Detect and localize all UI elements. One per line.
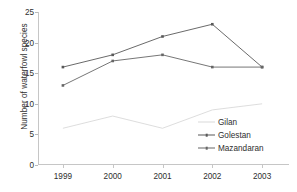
legend-label: Gilan bbox=[218, 118, 237, 127]
series-golestan bbox=[62, 23, 264, 68]
data-point-marker bbox=[211, 23, 214, 26]
y-tick-label: 10 bbox=[25, 99, 34, 108]
legend-label: Golestan bbox=[218, 131, 251, 140]
y-tick-label: 0 bbox=[29, 161, 34, 170]
x-tick-mark bbox=[262, 165, 263, 168]
data-point-marker bbox=[111, 60, 114, 63]
series-mazandaran bbox=[62, 54, 264, 87]
data-point-marker bbox=[261, 66, 264, 69]
y-tick-label: 25 bbox=[25, 8, 34, 17]
legend-label: Mazandaran bbox=[218, 144, 264, 153]
legend-item-mazandaran[interactable]: Mazandaran bbox=[198, 142, 294, 154]
legend-swatch-icon bbox=[198, 117, 215, 127]
x-tick-mark bbox=[113, 165, 114, 168]
legend-swatch-icon bbox=[198, 130, 215, 140]
data-point-marker bbox=[62, 84, 65, 87]
y-tick-label: 20 bbox=[25, 38, 34, 47]
y-tick-label: 5 bbox=[29, 130, 34, 139]
legend-item-gilan[interactable]: Gilan bbox=[198, 116, 294, 128]
chart-legend: GilanGolestanMazandaran bbox=[198, 116, 294, 155]
x-tick-mark bbox=[63, 165, 64, 168]
x-tick-mark bbox=[163, 165, 164, 168]
x-tick-label: 2003 bbox=[253, 172, 271, 181]
x-tick-mark bbox=[212, 165, 213, 168]
data-point-marker bbox=[211, 66, 214, 69]
waterfowl-species-line-chart: Number of waterfowl species 0510152025 1… bbox=[0, 0, 297, 192]
x-tick-label: 2000 bbox=[104, 172, 122, 181]
x-tick-label: 1999 bbox=[54, 172, 72, 181]
legend-item-golestan[interactable]: Golestan bbox=[198, 129, 294, 141]
data-point-marker bbox=[111, 54, 114, 57]
y-tick-label: 15 bbox=[25, 69, 34, 78]
y-tick-mark bbox=[35, 165, 38, 166]
legend-swatch-icon bbox=[198, 143, 215, 153]
series-line bbox=[63, 24, 262, 67]
data-point-marker bbox=[161, 54, 164, 57]
x-tick-label: 2002 bbox=[203, 172, 221, 181]
data-point-marker bbox=[62, 66, 65, 69]
data-point-marker bbox=[161, 35, 164, 38]
x-tick-label: 2001 bbox=[153, 172, 171, 181]
